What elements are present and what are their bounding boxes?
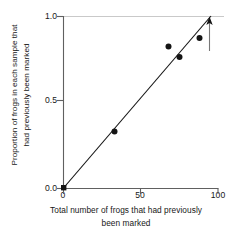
upward-arrow-icon [206, 17, 212, 52]
data-point-marker [197, 35, 203, 41]
fit-line [64, 16, 212, 188]
chart-figure: Proportion of frogs in each sample that … [0, 0, 245, 240]
x-axis-title-line-1: Total number of frogs that had previousl… [18, 204, 234, 217]
data-point-marker [177, 54, 183, 60]
data-point-marker [61, 185, 66, 190]
data-point-marker [166, 44, 172, 50]
x-axis-title: Total number of frogs that had previousl… [18, 204, 234, 229]
x-axis-title-line-2: been marked [18, 217, 234, 230]
data-point-marker [112, 129, 118, 135]
